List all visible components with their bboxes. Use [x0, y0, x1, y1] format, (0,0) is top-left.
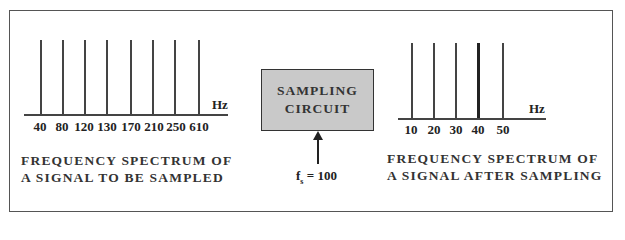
caption-line: FREQUENCY SPECTRUM OF: [387, 150, 603, 167]
sampling-rate-subscript: s: [300, 177, 303, 186]
spectral-line-40-emphasized: [477, 43, 480, 118]
tick-label: 40: [472, 122, 485, 138]
sampling-circuit-block: SAMPLING CIRCUIT: [261, 69, 374, 131]
tick-label: 40: [34, 119, 47, 135]
input-spectrum-caption: FREQUENCY SPECTRUM OF A SIGNAL TO BE SAM…: [21, 152, 232, 186]
spectral-line-10: [411, 43, 413, 118]
spectral-line-20: [433, 43, 435, 118]
tick-label: 170: [121, 119, 141, 135]
caption-line: FREQUENCY SPECTRUM OF: [21, 152, 232, 169]
block-label: SAMPLING: [277, 82, 358, 100]
caption-line: A SIGNAL AFTER SAMPLING: [387, 167, 603, 184]
spectral-line-80: [62, 40, 64, 114]
spectral-line-40: [40, 40, 42, 114]
spectral-line-30: [455, 43, 457, 118]
tick-label: 30: [450, 122, 463, 138]
output-spectrum-caption: FREQUENCY SPECTRUM OF A SIGNAL AFTER SAM…: [387, 150, 603, 184]
axis-unit-label: Hz: [529, 101, 545, 117]
sampling-rate-label: fs = 100: [296, 168, 337, 186]
spectral-line-120: [84, 40, 86, 114]
frequency-axis: [24, 114, 228, 116]
tick-label: 610: [189, 119, 209, 135]
tick-label: 80: [56, 119, 69, 135]
spectral-line-50: [502, 43, 504, 118]
tick-label: 130: [97, 119, 117, 135]
arrow-shaft: [317, 138, 319, 164]
tick-label: 120: [74, 119, 94, 135]
tick-label: 210: [144, 119, 164, 135]
frequency-axis: [398, 118, 546, 120]
caption-line: A SIGNAL TO BE SAMPLED: [21, 169, 232, 186]
tick-label: 250: [166, 119, 186, 135]
spectral-line-130: [106, 40, 108, 114]
spectral-line-210: [152, 40, 154, 114]
tick-label: 50: [497, 122, 510, 138]
spectral-line-610: [198, 40, 200, 114]
sampling-rate-value: = 100: [307, 168, 337, 183]
axis-unit-label: Hz: [212, 97, 228, 113]
tick-label: 10: [405, 122, 418, 138]
tick-label: 20: [428, 122, 441, 138]
spectral-line-250: [174, 40, 176, 114]
spectral-line-170: [130, 40, 132, 114]
block-label: CIRCUIT: [285, 100, 351, 118]
